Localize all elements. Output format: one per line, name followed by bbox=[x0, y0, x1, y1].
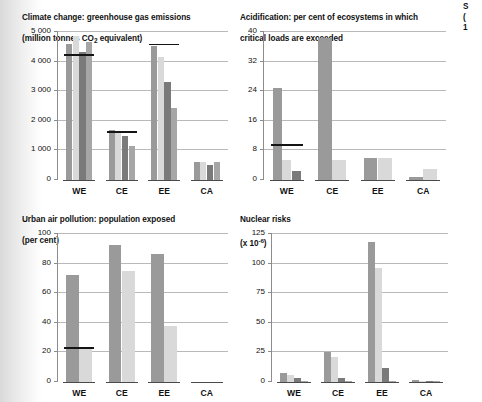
y-axis-tick-label: 100 bbox=[11, 228, 51, 237]
y-axis-tick-label: 8 bbox=[217, 144, 257, 153]
panel-title-line1: Nuclear risks bbox=[240, 215, 291, 224]
y-axis-line bbox=[271, 234, 272, 382]
y-axis-tick-label: 40 bbox=[11, 317, 51, 326]
bar bbox=[109, 245, 122, 382]
x-axis-label-ce: CE bbox=[101, 186, 144, 196]
x-axis-label-ca: CA bbox=[404, 388, 448, 398]
bar bbox=[364, 158, 378, 180]
y-axis-tick-label: 125 bbox=[225, 228, 265, 237]
bar bbox=[331, 357, 337, 382]
reference-line bbox=[149, 44, 179, 46]
x-axis-label-ca: CA bbox=[186, 388, 229, 398]
y-axis-tick-label: 100 bbox=[225, 258, 265, 267]
bar bbox=[109, 130, 115, 180]
panel-title-line1: Urban air pollution: population exposed bbox=[22, 215, 175, 224]
bar bbox=[151, 46, 157, 180]
bar bbox=[301, 381, 307, 382]
bar bbox=[382, 368, 388, 382]
bar bbox=[378, 158, 392, 180]
bar bbox=[426, 381, 432, 382]
bar bbox=[122, 136, 128, 180]
y-axis-tick-label: 3 000 bbox=[11, 85, 51, 94]
bar bbox=[324, 352, 330, 382]
reference-line bbox=[107, 131, 137, 133]
bar bbox=[115, 131, 121, 180]
bar-group-ce bbox=[324, 234, 351, 382]
group-baseline bbox=[191, 382, 223, 384]
bar bbox=[73, 36, 79, 180]
bar bbox=[409, 177, 423, 180]
y-axis-tick-label: 5 000 bbox=[11, 26, 51, 35]
bar-group-ee bbox=[368, 234, 395, 382]
bar bbox=[66, 44, 72, 180]
plot-acidification: 0816243240WECEEECA bbox=[264, 32, 446, 180]
bar-group-ce bbox=[109, 32, 135, 180]
bar bbox=[122, 271, 135, 382]
bar-group-ca bbox=[409, 32, 437, 180]
y-axis-tick-label: 0 bbox=[11, 174, 51, 183]
bar-group-ee bbox=[151, 234, 177, 382]
y-axis-tick-label: 32 bbox=[217, 56, 257, 65]
bar bbox=[338, 378, 344, 382]
plot-area-nuclear-risks: 0255075100125WECEEECA bbox=[272, 234, 448, 382]
y-axis-tick-label: 4 000 bbox=[11, 56, 51, 65]
y-axis-tick-label: 0 bbox=[11, 376, 51, 385]
bar bbox=[164, 326, 177, 382]
x-axis-label-ee: EE bbox=[360, 388, 404, 398]
bar-group-ce bbox=[109, 234, 135, 382]
y-axis-tick-label: 25 bbox=[225, 346, 265, 355]
bar-group-ee bbox=[151, 32, 177, 180]
bar bbox=[292, 171, 301, 180]
plot-area-climate-change: 01 0002 0003 0004 0005 000WECEEECA bbox=[58, 32, 228, 180]
bar bbox=[345, 381, 351, 382]
bar-group-we bbox=[273, 32, 301, 180]
x-axis-label-ca: CA bbox=[186, 186, 229, 196]
y-axis-tick-label: 1 000 bbox=[11, 144, 51, 153]
bar bbox=[86, 42, 92, 180]
y-axis-tick-label: 75 bbox=[225, 287, 265, 296]
x-axis-label-we: WE bbox=[264, 186, 310, 196]
plot-nuclear-risks: 0255075100125WECEEECA bbox=[272, 234, 448, 382]
y-axis-tick-label: 16 bbox=[217, 115, 257, 124]
panel-acidification: Acidification: per cent of ecosystems in… bbox=[240, 2, 460, 200]
bar bbox=[273, 88, 282, 181]
y-axis-line bbox=[263, 32, 264, 180]
bar-group-ca bbox=[412, 234, 439, 382]
bar-group-we bbox=[280, 234, 307, 382]
y-axis-tick-label: 20 bbox=[11, 346, 51, 355]
bar-group-ee bbox=[364, 32, 392, 180]
x-axis-label-ee: EE bbox=[355, 186, 401, 196]
bar-group-we bbox=[66, 32, 92, 180]
y-axis-tick-label: 24 bbox=[217, 85, 257, 94]
bar bbox=[332, 160, 346, 180]
bar bbox=[66, 275, 79, 382]
bar bbox=[423, 169, 437, 180]
bar bbox=[79, 348, 92, 382]
reference-line bbox=[64, 54, 94, 56]
bar bbox=[375, 268, 381, 382]
y-axis-tick-label: 0 bbox=[217, 174, 257, 183]
reference-line bbox=[271, 144, 303, 146]
panel-title-line2-post: ) bbox=[264, 238, 267, 247]
bar bbox=[79, 52, 85, 180]
plot-area-acidification: 0816243240WECEEECA bbox=[264, 32, 446, 180]
y-axis-tick-label: 60 bbox=[11, 287, 51, 296]
y-axis-tick-label: 2 000 bbox=[11, 115, 51, 124]
y-axis-tick-label: 80 bbox=[11, 258, 51, 267]
panel-title-line2-pre: (x 10 bbox=[240, 238, 258, 247]
bar bbox=[158, 57, 164, 180]
bar bbox=[368, 242, 374, 382]
bar bbox=[412, 380, 418, 382]
panel-title-line1: Climate change: greenhouse gas emissions bbox=[22, 13, 191, 22]
x-axis-label-ce: CE bbox=[310, 186, 356, 196]
plot-urban-air-pollution: 020406080100WECEEECA bbox=[58, 234, 228, 382]
panel-urban-air-pollution: Urban air pollution: population exposed … bbox=[22, 204, 234, 402]
y-axis-tick-label: 0 bbox=[225, 376, 265, 385]
x-axis-label-we: WE bbox=[272, 388, 316, 398]
plot-climate-change: 01 0002 0003 0004 0005 000WECEEECA bbox=[58, 32, 228, 180]
bar bbox=[129, 146, 135, 180]
bar bbox=[171, 108, 177, 180]
bar bbox=[200, 162, 206, 180]
bar-group-ce bbox=[318, 32, 346, 180]
x-axis-label-ee: EE bbox=[143, 388, 186, 398]
